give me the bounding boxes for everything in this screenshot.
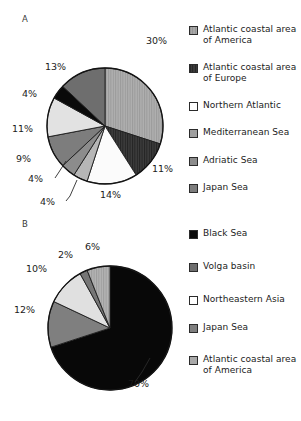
legend-swatch-icon xyxy=(189,324,198,333)
legend-label: Volga basin xyxy=(203,261,255,272)
legend-label: Atlantic coastal area of Europe xyxy=(203,62,301,83)
legend-swatch-icon xyxy=(189,296,198,305)
legend-item[interactable]: Atlantic coastal area of America xyxy=(189,24,301,45)
legend-label: Atlantic coastal area of America xyxy=(203,354,301,375)
legend-swatch-icon xyxy=(189,64,198,73)
pie-a-slices xyxy=(47,68,163,184)
panel-label-a: A xyxy=(22,14,28,24)
legend-swatch-icon xyxy=(189,129,198,138)
legend-swatch-icon xyxy=(189,263,198,272)
legend-label: Japan Sea xyxy=(203,182,248,193)
legend-label: Mediterranean Sea xyxy=(203,127,289,138)
legend-item[interactable]: Mediterranean Sea xyxy=(189,127,301,138)
legend-swatch-icon xyxy=(189,157,198,166)
pie-b-slices xyxy=(48,266,172,390)
legend-label: Northeastern Asia xyxy=(203,294,285,305)
pie-chart-a-svg xyxy=(0,26,190,216)
legend-item[interactable]: Volga basin xyxy=(189,261,301,272)
legend-swatch-icon xyxy=(189,184,198,193)
legend-label: Adriatic Sea xyxy=(203,155,258,166)
pie-chart-b xyxy=(0,228,190,418)
legend-item[interactable]: Atlantic coastal area of Europe xyxy=(189,62,301,83)
legend-item[interactable]: Japan Sea xyxy=(189,182,301,193)
legend-swatch-icon xyxy=(189,26,198,35)
legend-swatch-icon xyxy=(189,102,198,111)
legend-label: Atlantic coastal area of America xyxy=(203,24,301,45)
legend-label: Japan Sea xyxy=(203,322,248,333)
legend-item[interactable]: Atlantic coastal area of America xyxy=(189,354,301,375)
legend-label: Northern Atlantic xyxy=(203,100,281,111)
legend-item[interactable]: Northeastern Asia xyxy=(189,294,301,305)
legend-label: Black Sea xyxy=(203,228,247,239)
legend-swatch-icon xyxy=(189,356,198,365)
legend-item[interactable]: Northern Atlantic xyxy=(189,100,301,111)
pie-chart-a xyxy=(0,26,190,216)
legend-item[interactable]: Adriatic Sea xyxy=(189,155,301,166)
legend-item[interactable]: Black Sea xyxy=(189,228,301,239)
legend-item[interactable]: Japan Sea xyxy=(189,322,301,333)
legend-swatch-icon xyxy=(189,230,198,239)
pie-chart-b-svg xyxy=(0,228,190,418)
